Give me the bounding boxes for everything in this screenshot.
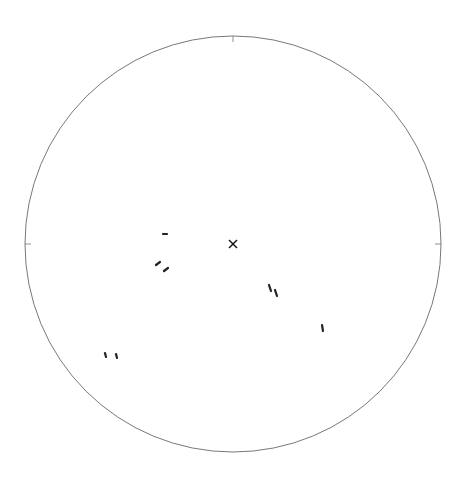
- marks: [105, 234, 323, 358]
- center-point-icon: [229, 240, 237, 248]
- stereonet-diagram: [0, 0, 463, 488]
